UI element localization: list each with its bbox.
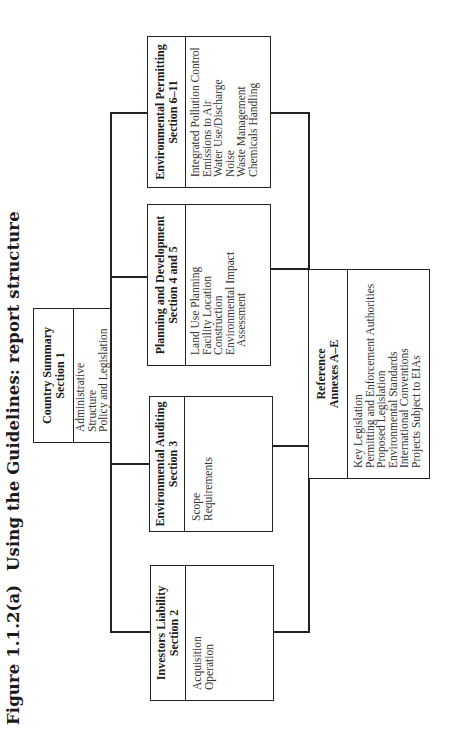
box-header: Country Summary Section 1 — [34, 309, 74, 442]
box-title: Environmental Permitting — [154, 44, 167, 179]
box-country-summary: Country Summary Section 1 Administrative… — [33, 308, 112, 443]
box-environmental-auditing: Environmental Auditing Section 3 Scope R… — [149, 396, 273, 532]
box-header: Environmental Auditing Section 3 — [150, 397, 185, 531]
box-item: International Conventions — [399, 280, 411, 468]
box-investors-liability: Investors Liability Section 2 Acquisitio… — [150, 565, 274, 701]
box-item: Operation — [204, 576, 216, 690]
box-header: Planning and Development Section 4 and 5 — [148, 205, 186, 365]
connector — [110, 277, 148, 279]
box-section: Section 1 — [54, 352, 67, 398]
figure-caption: Figure 1.1.2(a) Using the Guidelines: re… — [4, 211, 23, 725]
connector — [272, 446, 309, 448]
figure-number: Figure 1.1.2(a) — [4, 585, 23, 725]
box-item: Policy and Legislation — [98, 319, 110, 432]
box-title: Country Summary — [41, 327, 54, 424]
connector — [270, 113, 309, 115]
box-section: Section 3 — [167, 441, 180, 487]
box-item: Water Use/Discharge — [213, 47, 225, 177]
box-item: Construction — [213, 215, 225, 355]
box-items: Land Use Planning Facility Location Cons… — [186, 205, 270, 365]
connector — [110, 113, 148, 115]
box-item: Chemicals Handling — [248, 47, 260, 177]
box-item: Key Legislation — [353, 280, 365, 468]
connector-top-spine — [110, 113, 112, 633]
box-header: Reference Annexes A–E — [309, 270, 348, 478]
box-item: Proposed Legislation — [376, 280, 388, 468]
box-item: Integrated Pollution Control — [190, 47, 202, 177]
box-item: Projects Subject to EIAs — [411, 280, 423, 468]
box-section: Annexes A–E — [328, 340, 341, 408]
connector — [110, 632, 151, 634]
box-environmental-permitting: Environmental Permitting Section 6–11 In… — [147, 36, 271, 188]
box-reference: Reference Annexes A–E Key Legislation Pe… — [308, 269, 430, 479]
box-item: Scope — [191, 407, 203, 521]
rotated-figure-page: Figure 1.1.2(a) Using the Guidelines: re… — [0, 0, 454, 753]
connector — [273, 632, 310, 634]
box-item: Assessment — [236, 215, 248, 355]
box-section: Section 4 and 5 — [167, 246, 180, 324]
box-item: Requirements — [203, 407, 215, 521]
box-header: Investors Liability Section 2 — [151, 566, 186, 700]
connector — [270, 269, 309, 271]
box-item: Administrative Structure — [75, 319, 98, 432]
box-header: Environmental Permitting Section 6–11 — [148, 37, 186, 187]
connector — [110, 464, 150, 466]
box-items: Acquisition Operation — [186, 566, 273, 700]
box-items: Key Legislation Permitting and Enforceme… — [348, 270, 429, 478]
box-section: Section 6–11 — [167, 80, 180, 144]
box-item: Acquisition — [192, 576, 204, 690]
box-planning-development: Planning and Development Section 4 and 5… — [147, 204, 271, 366]
box-section: Section 2 — [168, 610, 181, 656]
box-items: Administrative Structure Policy and Legi… — [74, 309, 111, 442]
box-items: Integrated Pollution Control Emissions t… — [186, 37, 270, 187]
box-item: Waste Management — [236, 47, 248, 177]
figure-title: Using the Guidelines: report structure — [4, 211, 23, 571]
box-item: Land Use Planning — [190, 215, 202, 355]
box-items: Scope Requirements — [185, 397, 272, 531]
box-title: Planning and Development — [154, 216, 167, 355]
